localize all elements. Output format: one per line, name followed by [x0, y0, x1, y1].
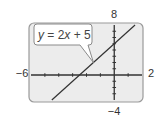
graph-chart: y = 2x + 5 8 −4 −6 2 — [0, 0, 161, 118]
x-max-label: 2 — [148, 67, 154, 79]
y-min-label: −4 — [108, 105, 121, 117]
equation-part-4: + 5 — [70, 28, 91, 42]
equation-label: y = 2x + 5 — [37, 28, 91, 42]
x-min-label: −6 — [16, 67, 29, 79]
equation-part-2: = 2 — [44, 28, 65, 42]
y-max-label: 8 — [111, 8, 117, 20]
